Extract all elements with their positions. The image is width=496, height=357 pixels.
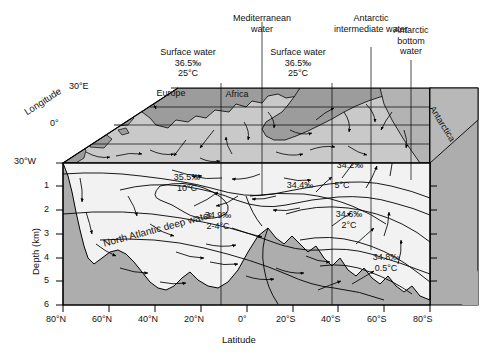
depth-tick-6: 6 [44,299,49,309]
label-antarctic-bottom-properties: 34.8‰ 0.5°C [360,252,412,274]
longitude-tick-0: 0° [50,118,59,128]
callout-surface-water-north: Surface water 36.5‰ 25°C [150,47,226,79]
map-label-europe: Europe [143,88,199,99]
map-label-africa: Africa [209,89,265,100]
latitude-tick-40n: 40°N [138,314,158,324]
depth-tick-1: 1 [44,180,49,190]
latitude-tick-40s: 40°S [321,314,341,324]
depth-axis-label: Depth (km) [30,228,41,275]
latitude-tick-60n: 60°N [92,314,112,324]
callout-surface-water-south: Surface water 36.5‰ 25°C [260,47,336,79]
latitude-tick-20n: 20°N [184,314,204,324]
depth-tick-4: 4 [44,252,49,262]
latitude-tick-20s: 20°S [276,314,296,324]
label-aaiw-temp: 5°C [327,180,357,191]
label-mediterranean-core: 35.5‰ 10°C [155,172,219,194]
latitude-axis-label: Latitude [222,334,256,345]
label-aaiw-salinity: 34.2‰ [326,160,374,171]
latitude-tick-80s: 80°S [413,314,433,324]
label-subantarctic-surface: 34.4‰ [276,180,324,191]
depth-tick-5: 5 [44,275,49,285]
callout-antarctic-bottom-water: Antarctic bottom water [376,25,446,57]
longitude-tick-30e: 30°E [69,81,89,91]
depth-tick-3: 3 [44,228,49,238]
latitude-tick-0: 0° [238,314,247,324]
latitude-tick-80n: 80°N [46,314,66,324]
longitude-tick-30w: 30°W [14,156,36,166]
label-circumpolar-deep: 34.6‰ 2°C [323,209,375,231]
depth-tick-2: 2 [44,204,49,214]
latitude-tick-60s: 60°S [367,314,387,324]
